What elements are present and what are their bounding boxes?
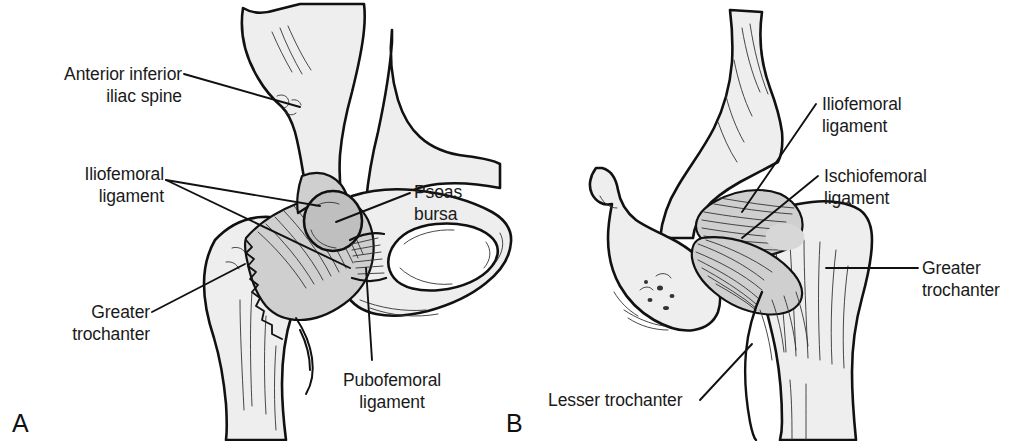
- label-ischiofemoral-ligament-line1: Ischiofemoral: [824, 166, 927, 186]
- anatomy-figure: Anterior inferior iliac spine Iliofemora…: [0, 0, 1010, 441]
- label-lesser-trochanter: Lesser trochanter: [548, 390, 683, 410]
- label-anterior-inferior-iliac-spine-line1: Anterior inferior: [64, 64, 182, 84]
- label-psoas-bursa-line1: Psoas: [414, 182, 462, 202]
- label-greater-trochanter-a-line2: trochanter: [72, 324, 150, 344]
- label-greater-trochanter-b-line2: trochanter: [922, 280, 1000, 300]
- label-ischiofemoral-ligament-line2: ligament: [824, 188, 890, 208]
- panel-letter-b: B: [506, 409, 523, 437]
- label-iliofemoral-ligament-a-line1: Iliofemoral: [84, 164, 164, 184]
- anatomy-illustration: Anterior inferior iliac spine Iliofemora…: [0, 0, 1010, 441]
- psoas-bursa-shape: [304, 191, 362, 251]
- panel-letter-a: A: [12, 409, 29, 437]
- label-iliofemoral-ligament-b-line2: ligament: [822, 116, 888, 136]
- label-anterior-inferior-iliac-spine-line2: iliac spine: [106, 86, 182, 106]
- label-greater-trochanter-a-line1: Greater: [91, 302, 150, 322]
- label-iliofemoral-ligament-b-line1: Iliofemoral: [822, 94, 902, 114]
- label-pubofemoral-ligament-line1: Pubofemoral: [343, 370, 441, 390]
- label-psoas-bursa-line2: bursa: [414, 204, 458, 224]
- label-pubofemoral-ligament-line2: ligament: [359, 392, 425, 412]
- label-iliofemoral-ligament-a-line2: ligament: [99, 186, 165, 206]
- label-greater-trochanter-b-line1: Greater: [922, 258, 981, 278]
